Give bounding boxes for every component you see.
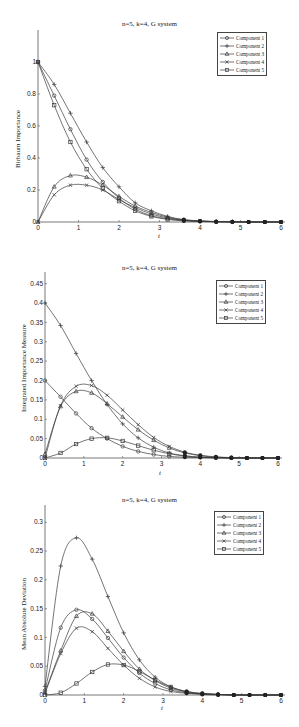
plot-area: 012345600.050.10.150.20.250.3 xyxy=(0,0,299,727)
chart-title: n=5, k=4, G system xyxy=(0,496,299,504)
square-marker-icon xyxy=(217,546,231,552)
x-tick-label: 6 xyxy=(279,697,283,704)
series-component-5 xyxy=(43,663,283,697)
y-tick-label: 0.3 xyxy=(34,518,43,525)
legend-item: Component 3 xyxy=(217,529,261,537)
x-marker-icon xyxy=(217,538,231,544)
legend-label: Component 5 xyxy=(233,546,261,552)
legend-label: Component 3 xyxy=(233,530,261,536)
series-component-1 xyxy=(43,608,283,697)
triangle-marker-icon xyxy=(217,530,231,536)
legend-label: Component 1 xyxy=(233,514,261,520)
legend-label: Component 2 xyxy=(233,522,261,528)
series-component-3 xyxy=(43,612,283,697)
x-tick-label: 2 xyxy=(122,697,126,704)
x-tick-label: 4 xyxy=(201,697,205,704)
x-axis-label: t xyxy=(161,704,163,712)
legend-item: Component 2 xyxy=(217,521,261,529)
x-tick-label: 5 xyxy=(240,697,244,704)
y-tick-label: 0.1 xyxy=(34,634,43,641)
y-tick-label: 0.2 xyxy=(34,576,43,583)
legend-label: Component 4 xyxy=(233,538,261,544)
circle-marker-icon xyxy=(217,514,231,520)
x-tick-label: 3 xyxy=(161,697,165,704)
x-tick-label: 0 xyxy=(43,697,47,704)
y-axis-label: Mean Absolute Deviation xyxy=(20,578,28,650)
y-tick-label: 0.15 xyxy=(30,605,43,612)
y-tick-label: 0.05 xyxy=(30,662,43,669)
series-component-2 xyxy=(43,536,283,697)
y-tick-label: 0 xyxy=(39,691,43,698)
plus-marker-icon xyxy=(217,522,231,528)
legend: Component 1Component 2Component 3Compone… xyxy=(214,511,264,555)
legend-item: Component 5 xyxy=(217,545,261,553)
x-tick-label: 1 xyxy=(83,697,87,704)
legend-item: Component 4 xyxy=(217,537,261,545)
chart-mean-absolute-deviation: n=5, k=4, G system 012345600.050.10.150.… xyxy=(0,0,299,727)
y-tick-label: 0.25 xyxy=(30,547,43,554)
legend-item: Component 1 xyxy=(217,513,261,521)
series-component-4 xyxy=(43,627,283,697)
